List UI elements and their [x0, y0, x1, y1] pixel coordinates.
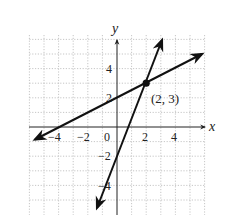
y-axis-label: y: [110, 21, 119, 36]
x-axis-label: x: [208, 119, 216, 134]
intersection-point: [143, 80, 150, 87]
coordinate-plane: y x −4 −2 0 2 4 4 2 −2 −4 (2, 3): [0, 0, 229, 215]
x-tick-neg2: −2: [77, 130, 90, 144]
x-tick-labels: −4 −2 0 2 4: [48, 130, 177, 144]
x-tick-4: 4: [171, 130, 177, 144]
origin-label: 0: [104, 130, 110, 144]
x-tick-2: 2: [142, 130, 148, 144]
y-tick-neg2: −2: [98, 149, 111, 163]
y-tick-4: 4: [106, 62, 112, 76]
intersection-label: (2, 3): [151, 91, 179, 106]
